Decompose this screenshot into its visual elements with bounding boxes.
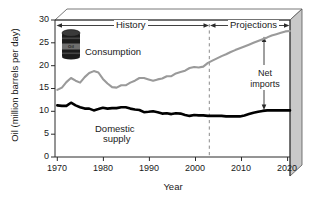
x-tick-1970: 1970 [40,164,74,173]
x-tick-2010: 2010 [224,164,258,173]
chart-canvas [0,0,314,207]
annotation-net-imports-line1: Net [252,68,278,78]
x-axis-title: Year [133,182,213,192]
x-tick-1990: 1990 [132,164,166,173]
x-tick-2000: 2000 [178,164,212,173]
x-tick-marks [57,157,287,161]
y-tick-0: 0 [33,152,49,161]
box-right-face [290,9,302,176]
y-tick-15: 15 [33,83,49,92]
period-label-history: History [114,20,148,30]
y-tick-30: 30 [33,15,49,24]
series-line-domestic-supply [57,103,290,117]
y-tick-marks [51,20,55,157]
x-tick-2020: 2020 [270,164,304,173]
series-label-consumption: Consumption [85,47,141,57]
oil-supply-consumption-chart: Oil 0 5 10 15 20 25 30 1970 1980 1990 20… [0,0,314,207]
annotation-net-imports-line2: imports [243,79,287,89]
y-tick-25: 25 [33,38,49,47]
y-tick-10: 10 [33,106,49,115]
y-tick-20: 20 [33,61,49,70]
x-tick-1980: 1980 [86,164,120,173]
y-axis-title: Oil (million barrels per day) [10,10,20,160]
y-tick-5: 5 [33,129,49,138]
period-label-projections: Projections [228,20,279,30]
series-label-domestic-supply-line2: supply [103,134,130,144]
barrel-label: Oil [63,44,79,49]
